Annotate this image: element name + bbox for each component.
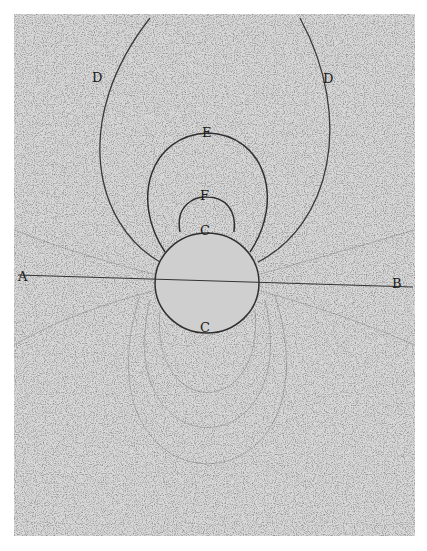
magnetized-sphere xyxy=(155,233,259,333)
label-f: F xyxy=(200,189,209,202)
field-diagram xyxy=(0,0,427,551)
label-b: B xyxy=(392,277,402,290)
label-c-bottom: C xyxy=(200,321,210,334)
label-e: E xyxy=(202,126,212,139)
label-a: A xyxy=(18,270,27,283)
label-c-top: C xyxy=(200,224,210,237)
label-d-left: D xyxy=(92,71,102,84)
label-d-right: D xyxy=(323,72,333,85)
